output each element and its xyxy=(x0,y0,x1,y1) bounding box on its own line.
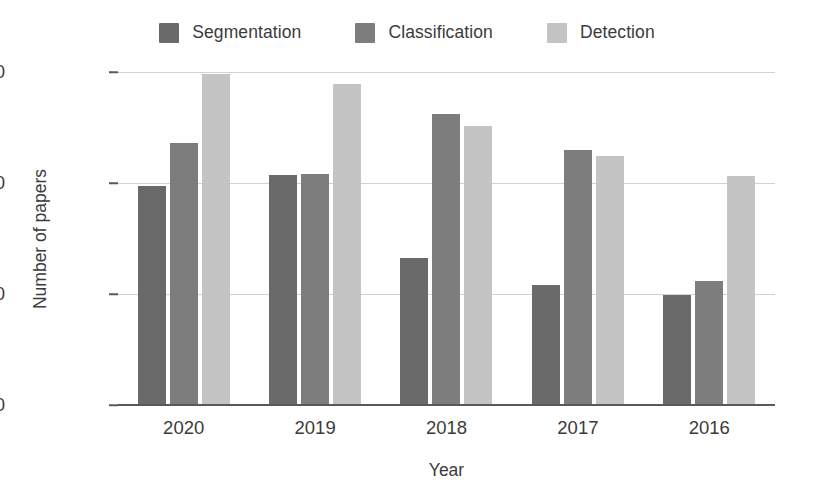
bar-group xyxy=(118,72,249,405)
x-axis-line xyxy=(118,404,775,406)
bar[interactable] xyxy=(301,174,329,405)
x-tick-label: 2020 xyxy=(124,417,244,439)
legend-swatch-icon xyxy=(547,23,567,43)
bar[interactable] xyxy=(333,84,361,405)
bar-group xyxy=(249,72,380,405)
y-tick-label: 1000 xyxy=(0,173,5,194)
y-tick-mark xyxy=(109,404,118,406)
bar-chart-figure: SegmentationClassificationDetection Numb… xyxy=(0,0,814,492)
y-tick-mark xyxy=(109,182,118,184)
bar[interactable] xyxy=(400,258,428,405)
legend-entry[interactable]: Classification xyxy=(355,22,493,43)
bar[interactable] xyxy=(663,295,691,405)
legend-entry[interactable]: Detection xyxy=(547,22,655,43)
x-axis-label: Year xyxy=(118,460,775,481)
y-tick-mark xyxy=(109,71,118,73)
legend-label: Detection xyxy=(580,22,655,43)
x-tick-label: 2019 xyxy=(255,417,375,439)
bar[interactable] xyxy=(464,126,492,405)
legend-label: Segmentation xyxy=(192,22,301,43)
legend-swatch-icon xyxy=(355,23,375,43)
bar[interactable] xyxy=(564,150,592,405)
legend-entry[interactable]: Segmentation xyxy=(159,22,301,43)
x-tick-label: 2016 xyxy=(649,417,769,439)
y-tick-label: 500 xyxy=(0,284,5,305)
bar[interactable] xyxy=(727,176,755,405)
x-tick-label: 2018 xyxy=(387,417,507,439)
bar[interactable] xyxy=(695,281,723,405)
plot-area: Number of papers Year 050010001500 20202… xyxy=(118,72,775,405)
y-tick-label: 0 xyxy=(0,395,5,416)
bar-group xyxy=(381,72,512,405)
bar-group xyxy=(512,72,643,405)
legend-swatch-icon xyxy=(159,23,179,43)
bar[interactable] xyxy=(269,175,297,405)
bar-group xyxy=(644,72,775,405)
bar[interactable] xyxy=(170,143,198,405)
bar[interactable] xyxy=(202,74,230,405)
bar[interactable] xyxy=(138,186,166,405)
bar[interactable] xyxy=(596,156,624,405)
y-tick-label: 1500 xyxy=(0,62,5,83)
legend-label: Classification xyxy=(388,22,493,43)
y-axis-label: Number of papers xyxy=(30,168,51,308)
chart-legend: SegmentationClassificationDetection xyxy=(0,22,814,43)
bar[interactable] xyxy=(532,285,560,405)
x-tick-label: 2017 xyxy=(518,417,638,439)
bar[interactable] xyxy=(432,114,460,405)
y-tick-mark xyxy=(109,293,118,295)
